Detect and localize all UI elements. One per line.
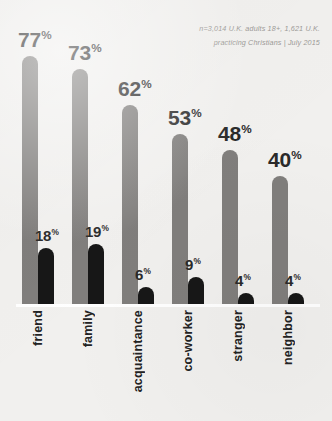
category-label-acquaintance: acquaintance	[131, 310, 145, 392]
plot-area: 77%18%73%19%62%6%53%9%48%4%40%4%	[0, 0, 332, 306]
category-axis: friendfamilyacquaintanceco-workerstrange…	[0, 310, 332, 415]
value-label-secondary-stranger: 4%	[235, 272, 251, 289]
category-label-friend: friend	[31, 310, 45, 346]
bar-chart-figure: n=3,014 U.K. adults 18+, 1,621 U.K. prac…	[0, 0, 332, 421]
category-label-stranger: stranger	[231, 310, 245, 362]
value-label-primary-acquaintance: 62%	[118, 77, 152, 101]
value-label-secondary-acquaintance: 6%	[135, 266, 151, 283]
value-label-primary-friend: 77%	[18, 28, 52, 52]
bar-secondary-family	[88, 244, 104, 306]
value-label-secondary-friend: 18%	[35, 227, 59, 244]
bar-secondary-co-worker	[188, 277, 204, 306]
bar-primary-co-worker	[172, 134, 188, 306]
bar-secondary-friend	[38, 248, 54, 306]
bar-primary-family	[72, 69, 88, 306]
value-label-primary-stranger: 48%	[218, 122, 252, 146]
category-label-neighbor: neighbor	[281, 310, 295, 365]
value-label-secondary-co-worker: 9%	[185, 256, 201, 273]
value-label-secondary-family: 19%	[85, 223, 109, 240]
value-label-primary-co-worker: 53%	[168, 106, 202, 130]
category-label-family: family	[81, 310, 95, 347]
value-label-primary-family: 73%	[68, 41, 102, 65]
category-label-co-worker: co-worker	[181, 310, 195, 372]
bar-group-stranger	[222, 0, 254, 306]
bar-primary-friend	[22, 56, 38, 306]
value-label-secondary-neighbor: 4%	[285, 272, 301, 289]
bar-group-acquaintance	[122, 0, 154, 306]
value-label-primary-neighbor: 40%	[268, 148, 302, 172]
baseline-axis	[16, 304, 320, 307]
